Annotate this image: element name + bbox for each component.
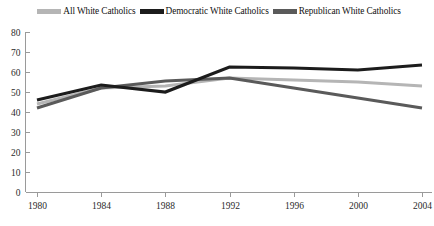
y-tick-label: 50 [11,88,21,98]
y-tick-label: 30 [11,128,21,138]
legend-label-democratic-white-catholics: Democratic White Catholics [166,7,269,16]
y-tick-label: 70 [11,48,21,58]
x-tick-label: 1988 [156,201,175,211]
legend-swatch-icon-all-white-catholics [37,9,61,14]
y-tick-label: 40 [11,108,21,118]
x-tick-label: 2000 [349,201,368,211]
legend-swatch-icon-democratic-white-catholics [140,9,164,14]
legend-item-all-white-catholics: All White Catholics [33,7,135,16]
legend-label-republican-white-catholics: Republican White Catholics [299,7,401,16]
x-tick-label: 2004 [413,201,432,211]
y-tick-label: 10 [11,168,21,178]
x-tick-label: 1984 [92,201,111,211]
legend-label-all-white-catholics: All White Catholics [63,7,135,16]
legend-swatch-icon-republican-white-catholics [273,9,297,14]
y-tick-label: 20 [11,148,21,158]
line-chart: All White Catholics Democratic White Cat… [0,0,434,226]
plot-area: 0102030405060708019801984198819921996200… [0,22,434,226]
x-tick-label: 1996 [285,201,304,211]
chart-legend: All White Catholics Democratic White Cat… [0,3,434,21]
x-tick-label: 1980 [28,201,47,211]
chart-canvas: 0102030405060708019801984198819921996200… [0,22,434,226]
legend-item-republican-white-catholics: Republican White Catholics [269,7,401,16]
y-tick-label: 60 [11,68,21,78]
y-tick-label: 80 [11,28,21,38]
x-tick-label: 1992 [221,201,240,211]
y-tick-label: 0 [16,188,21,198]
legend-item-democratic-white-catholics: Democratic White Catholics [136,7,269,16]
